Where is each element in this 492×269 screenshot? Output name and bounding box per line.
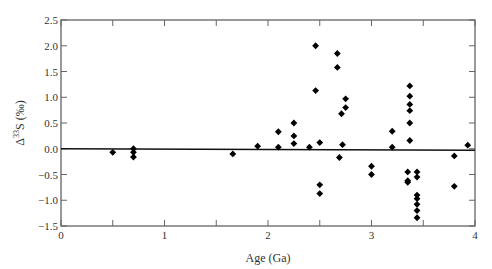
data-point-diamond [334, 50, 341, 57]
data-points [109, 42, 471, 221]
data-point-diamond [338, 110, 345, 117]
data-point-diamond [389, 128, 396, 135]
data-point-diamond [406, 120, 413, 127]
x-axis-title: Age (Ga) [246, 251, 291, 265]
data-point-diamond [316, 139, 323, 146]
data-point-diamond [406, 101, 413, 108]
data-point-diamond [316, 190, 323, 197]
y-tick-label: −0.5 [38, 169, 58, 181]
zero-reference-line [61, 149, 475, 151]
data-point-diamond [312, 87, 319, 94]
data-point-diamond [404, 169, 411, 176]
data-point-diamond [451, 153, 458, 160]
scatter-chart: 012342.52.01.51.00.50.0−0.5−1.0−1.5 Age … [0, 0, 492, 269]
data-point-diamond [342, 104, 349, 111]
y-tick-label: 0.0 [44, 143, 58, 155]
x-tick-label: 3 [369, 229, 375, 241]
data-point-diamond [406, 137, 413, 144]
data-point-diamond [312, 42, 319, 49]
data-point-diamond [406, 93, 413, 100]
data-point-diamond [368, 163, 375, 170]
data-point-diamond [464, 142, 471, 149]
data-point-diamond [290, 120, 297, 127]
x-tick-label: 0 [58, 229, 64, 241]
y-axis-title: Δ33S (‰) [12, 100, 27, 145]
data-point-diamond [342, 95, 349, 102]
data-point-diamond [229, 151, 236, 158]
data-point-diamond [109, 149, 116, 156]
y-tick-label: −1.5 [38, 220, 58, 232]
data-point-diamond [290, 140, 297, 147]
data-point-diamond [414, 201, 421, 208]
data-point-diamond [275, 128, 282, 135]
data-point-diamond [316, 181, 323, 188]
data-point-diamond [368, 171, 375, 178]
data-point-diamond [406, 107, 413, 114]
data-point-diamond [414, 207, 421, 214]
y-tick-label: 1.0 [44, 91, 58, 103]
y-tick-label: 2.0 [44, 40, 58, 52]
plot-axes: 012342.52.01.51.00.50.0−0.5−1.0−1.5 [38, 14, 478, 241]
data-point-diamond [254, 143, 261, 150]
x-tick-label: 4 [472, 229, 478, 241]
data-point-diamond [130, 154, 137, 161]
data-point-diamond [339, 141, 346, 148]
data-point-diamond [290, 132, 297, 139]
data-point-diamond [414, 174, 421, 181]
data-point-diamond [336, 154, 343, 161]
y-tick-label: 0.5 [44, 117, 58, 129]
data-point-diamond [334, 64, 341, 71]
data-point-diamond [414, 214, 421, 221]
x-tick-label: 2 [265, 229, 271, 241]
data-point-diamond [406, 83, 413, 90]
y-tick-label: −1.0 [38, 194, 58, 206]
y-tick-label: 2.5 [44, 14, 58, 26]
data-point-diamond [451, 183, 458, 190]
y-tick-label: 1.5 [44, 66, 58, 78]
x-tick-label: 1 [162, 229, 168, 241]
